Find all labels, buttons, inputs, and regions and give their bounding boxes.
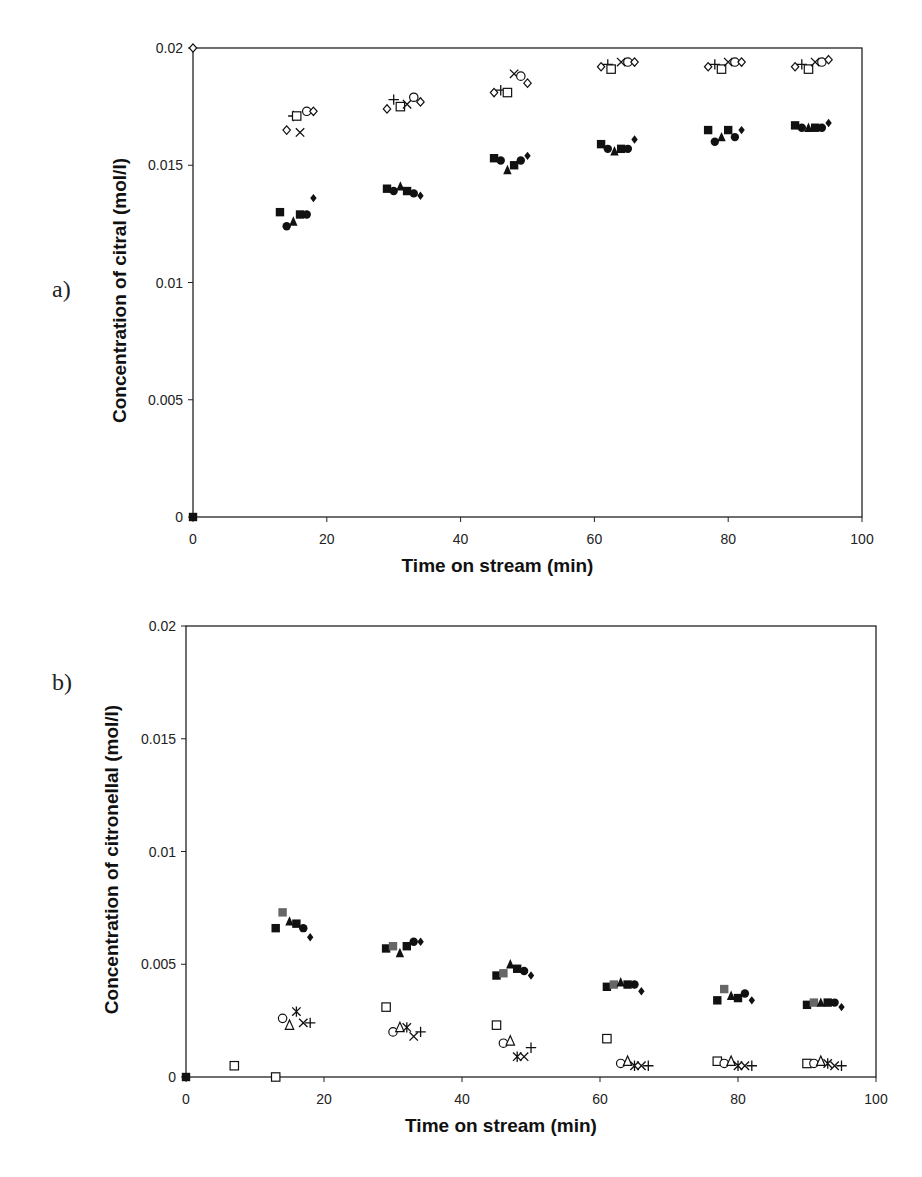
data-point-diamond — [307, 933, 313, 941]
data-point-square — [389, 942, 397, 950]
series-filled-circle — [282, 124, 806, 231]
data-point-diamond-open — [738, 58, 745, 66]
data-point-square-open — [603, 1034, 611, 1042]
data-point-square — [724, 126, 732, 134]
y-tick-label: 0.005 — [148, 392, 183, 408]
y-tick-label: 0.01 — [156, 275, 183, 291]
data-point-circle — [741, 989, 749, 997]
series-plus — [305, 1018, 847, 1071]
data-point-circle — [410, 189, 418, 197]
series-asterisk — [292, 1006, 832, 1071]
x-tick-label: 20 — [319, 531, 335, 547]
data-point-triangle-open — [285, 1020, 293, 1029]
x-tick-label: 0 — [182, 1091, 190, 1107]
data-point-square — [713, 996, 721, 1004]
data-point-circle — [731, 133, 739, 141]
data-point-circle — [517, 156, 525, 164]
panel-label: a) — [52, 276, 71, 302]
series-open-circle — [303, 58, 827, 116]
data-point-square-open — [272, 1073, 280, 1081]
series-open-square — [230, 1003, 811, 1081]
y-tick-label: 0.02 — [156, 40, 183, 56]
data-point-diamond-open — [189, 44, 196, 52]
data-point-asterisk — [292, 1006, 300, 1016]
data-point-circle — [604, 145, 612, 153]
data-point-plus — [526, 1042, 536, 1052]
data-point-diamond — [838, 1003, 844, 1011]
data-point-diamond — [738, 126, 744, 134]
data-point-square — [734, 994, 742, 1002]
series-filled-square-2 — [292, 919, 832, 1006]
x-tick-label: 100 — [850, 531, 874, 547]
data-point-diamond-open — [524, 79, 531, 87]
y-tick-label: 0 — [175, 509, 183, 525]
data-point-diamond-open — [283, 126, 290, 134]
x-tick-label: 40 — [454, 1091, 470, 1107]
data-point-diamond — [417, 938, 423, 946]
data-point-diamond — [310, 194, 316, 202]
data-point-diamond — [825, 119, 831, 127]
y-tick-label: 0.01 — [149, 844, 176, 860]
series-plus — [288, 59, 807, 121]
series-open-square — [292, 65, 812, 120]
data-point-triangle-open — [727, 1056, 735, 1065]
data-point-circle — [390, 187, 398, 195]
data-point-square — [720, 985, 728, 993]
data-point-square-open — [292, 112, 300, 120]
data-point-circle — [299, 924, 307, 932]
data-point-diamond — [631, 135, 637, 143]
y-tick-label: 0.02 — [149, 618, 176, 634]
data-point-diamond — [417, 192, 423, 200]
data-point-circle-open — [517, 72, 525, 80]
chart-panel-b: 00.0050.010.0150.02020406080100Time on s… — [52, 618, 888, 1136]
chart-panel-a: 00.0050.010.0150.02020406080100Time on s… — [52, 40, 874, 576]
x-tick-label: 60 — [592, 1091, 608, 1107]
data-point-cross — [520, 1053, 528, 1061]
data-point-diamond — [528, 971, 534, 979]
data-point-square-open — [396, 102, 404, 110]
data-point-square — [272, 924, 280, 932]
data-point-cross — [410, 1032, 418, 1040]
data-point-square — [610, 980, 618, 988]
data-point-plus — [415, 1027, 425, 1037]
data-point-circle-open — [410, 93, 418, 101]
series-cross — [299, 1019, 839, 1070]
x-tick-label: 80 — [730, 1091, 746, 1107]
panel-label: b) — [52, 669, 72, 695]
y-tick-label: 0.015 — [141, 731, 176, 747]
data-point-diamond-open — [383, 105, 390, 113]
data-point-circle-open — [278, 1014, 286, 1022]
x-tick-label: 80 — [720, 531, 736, 547]
series-filled-circle-2 — [303, 124, 827, 219]
data-point-triangle-open — [817, 1056, 825, 1065]
data-point-circle — [630, 980, 638, 988]
data-point-square — [189, 513, 197, 521]
series-gray-square — [278, 908, 818, 1007]
data-point-cross — [296, 128, 304, 136]
data-point-square — [499, 969, 507, 977]
data-point-circle — [711, 138, 719, 146]
data-point-square-open — [503, 88, 511, 96]
data-point-circle — [282, 222, 290, 230]
data-point-square — [810, 998, 818, 1006]
x-tick-label: 20 — [316, 1091, 332, 1107]
data-point-diamond — [638, 987, 644, 995]
series-open-circle — [278, 1014, 818, 1068]
data-point-square — [704, 126, 712, 134]
data-point-square-open — [230, 1062, 238, 1070]
series-filled-square — [189, 121, 800, 521]
series-filled-circle — [299, 924, 839, 1007]
data-point-circle — [410, 938, 418, 946]
data-point-square-open — [607, 65, 615, 73]
x-tick-label: 60 — [587, 531, 603, 547]
series-filled-square-2 — [296, 124, 820, 219]
series-open-triangle — [285, 1020, 825, 1065]
data-point-square-open — [382, 1003, 390, 1011]
plot-area — [186, 626, 876, 1077]
data-point-circle — [798, 124, 806, 132]
data-point-square — [276, 208, 284, 216]
series-open-diamond — [189, 44, 799, 134]
x-axis-label: Time on stream (min) — [402, 555, 594, 576]
x-tick-label: 40 — [453, 531, 469, 547]
data-point-diamond-open — [631, 58, 638, 66]
